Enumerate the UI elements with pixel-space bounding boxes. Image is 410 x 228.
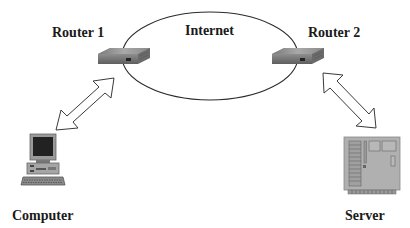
server-label: Server — [345, 209, 385, 223]
router2-server-link-arrow — [323, 73, 376, 128]
router-2-icon — [272, 48, 324, 64]
computer-label: Computer — [12, 209, 73, 223]
internet-label: Internet — [185, 24, 234, 38]
router-1-label: Router 1 — [52, 26, 104, 40]
computer-icon — [21, 134, 65, 185]
router-1-icon — [98, 48, 150, 64]
server-icon — [344, 137, 400, 194]
computer-router1-link-arrow — [56, 78, 114, 130]
router-2-label: Router 2 — [308, 26, 360, 40]
